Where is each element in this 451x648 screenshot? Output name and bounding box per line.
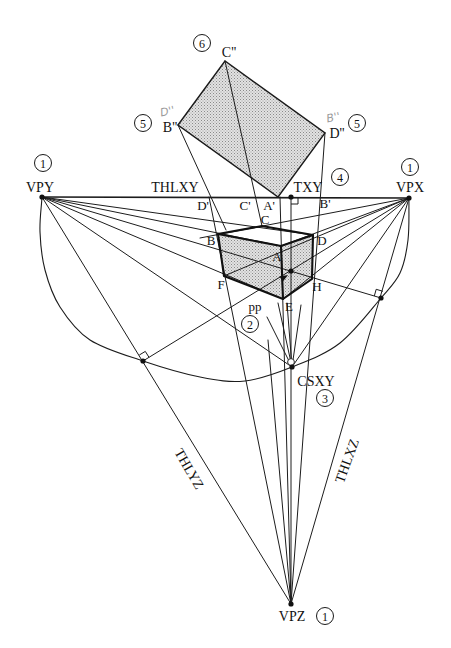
foot-point-left xyxy=(140,358,145,363)
step-marker-pp: 2 xyxy=(242,316,259,333)
csxy-stub-line xyxy=(292,305,301,367)
right-angle-mark-left xyxy=(139,351,149,357)
label-thlxy: THLXY xyxy=(151,180,198,195)
step-marker-c2: 6 xyxy=(194,35,211,52)
label-corner-h: H xyxy=(312,279,321,294)
label-thlyz: THLYZ xyxy=(171,446,206,492)
step-marker-csxy: 3 xyxy=(317,390,334,407)
step-marker-b2: 5 xyxy=(135,115,152,132)
step-number: 1 xyxy=(407,161,413,175)
three-point-perspective-diagram: VPY VPX VPZ THLXY TXY CSXY pp C'' B'' D'… xyxy=(0,0,451,648)
step-marker-vpy: 1 xyxy=(35,155,52,172)
label-b-double-prime: B'' xyxy=(163,120,177,135)
label-corner-b: B xyxy=(207,233,216,248)
handwritten-note-right: B'' xyxy=(325,110,341,126)
step-marker-d2: 5 xyxy=(349,115,366,132)
vpx-point xyxy=(406,195,411,200)
step-number: 5 xyxy=(354,117,360,131)
label-a-prime: A' xyxy=(263,198,275,213)
label-vpy: VPY xyxy=(26,180,54,195)
step-number: 3 xyxy=(322,392,328,406)
label-corner-c: C xyxy=(261,212,270,227)
diagram-svg: VPY VPX VPZ THLXY TXY CSXY pp C'' B'' D'… xyxy=(0,0,451,648)
label-csxy: CSXY xyxy=(297,374,334,389)
step-marker-txy: 4 xyxy=(332,169,349,186)
label-c-prime: C' xyxy=(239,198,250,213)
step-marker-vpz: 1 xyxy=(317,608,334,625)
step-number: 2 xyxy=(247,318,253,332)
label-vpz: VPZ xyxy=(279,609,305,624)
label-corner-a: A xyxy=(272,249,282,264)
step-number: 6 xyxy=(199,37,205,51)
label-vpx: VPX xyxy=(396,180,424,195)
csxy-hollow-marker xyxy=(288,359,295,366)
foot-point-right xyxy=(378,295,383,300)
label-corner-e: E xyxy=(285,299,293,314)
label-thlxz: THLXZ xyxy=(332,437,362,485)
vpz-point xyxy=(288,601,293,606)
step-number: 5 xyxy=(140,117,146,131)
vpy-point xyxy=(39,194,44,199)
label-d-double-prime: D'' xyxy=(329,126,344,141)
step-number: 1 xyxy=(322,610,328,624)
step-number: 1 xyxy=(40,157,46,171)
label-corner-d: D xyxy=(317,233,326,248)
step-number: 4 xyxy=(337,171,343,185)
csxy-point xyxy=(289,364,294,369)
label-b-prime: B' xyxy=(319,196,330,211)
step-marker-vpx: 1 xyxy=(402,159,419,176)
rotated-plane-quad xyxy=(178,61,325,197)
handwritten-note-left: D'' xyxy=(159,104,176,120)
label-pp: pp xyxy=(249,299,262,314)
txy-point xyxy=(288,194,293,199)
label-d-prime: D' xyxy=(197,198,209,213)
horizon-line-thlxy xyxy=(42,197,409,198)
label-c-double-prime: C'' xyxy=(222,45,236,60)
center-of-vision-point xyxy=(288,268,293,273)
label-txy: TXY xyxy=(294,180,323,195)
label-corner-f: F xyxy=(217,277,224,292)
